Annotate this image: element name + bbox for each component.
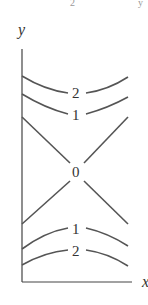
top-fragment-left: 2 <box>70 0 75 8</box>
curve-upper-2-right <box>86 77 128 93</box>
level-curve-diagram: 2 y y x 2 1 0 1 2 <box>0 0 148 305</box>
label-lower-2: 2 <box>72 243 80 259</box>
line-zero-asc-upper <box>84 117 128 163</box>
top-fragment-right: y <box>138 0 143 8</box>
label-upper-1: 1 <box>72 107 80 123</box>
curve-upper-2-left <box>22 76 68 93</box>
line-zero-asc-lower <box>22 181 70 224</box>
y-axis-label: y <box>16 21 26 39</box>
curve-lower-2-right <box>86 250 128 266</box>
curve-upper-1-right <box>86 97 128 114</box>
curve-lower-2-left <box>22 250 68 265</box>
label-zero: 0 <box>72 164 80 180</box>
x-axis-label: x <box>141 273 148 290</box>
curve-lower-1-right <box>86 228 128 246</box>
curve-lower-1-left <box>22 228 68 249</box>
label-lower-1: 1 <box>72 221 80 237</box>
line-zero-desc-lower <box>84 181 128 224</box>
curve-upper-1-left <box>22 94 68 114</box>
label-upper-2: 2 <box>72 85 80 101</box>
line-zero-desc-upper <box>22 117 70 163</box>
